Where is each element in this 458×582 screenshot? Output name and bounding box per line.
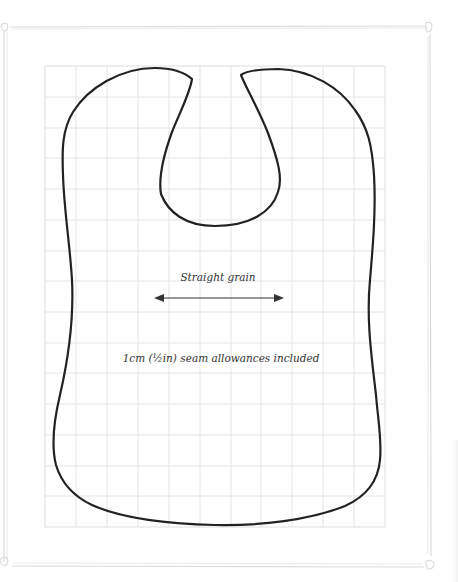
pattern-grid: [45, 66, 385, 527]
straight-grain-label: Straight grain: [180, 271, 255, 283]
bib-outline: [53, 68, 380, 525]
pattern-page: Straight grain 1cm (½in) seam allowances…: [0, 0, 458, 582]
seam-allowance-note: 1cm (½in) seam allowances included: [123, 352, 320, 364]
arrowhead-right-icon: [274, 294, 284, 302]
page-edge-shadow: [452, 440, 458, 582]
arrowhead-left-icon: [154, 294, 164, 302]
straight-grain-arrow: [154, 294, 284, 302]
pattern-canvas: [0, 0, 458, 582]
